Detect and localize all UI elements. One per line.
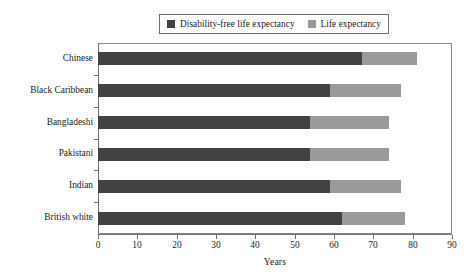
- x-axis-tick-label: 0: [86, 240, 110, 251]
- chart-legend: Disability-free life expectancy Life exp…: [159, 14, 389, 34]
- bar-row: [98, 84, 401, 97]
- bar-segment-life-expectancy: [330, 180, 401, 193]
- bar-segment-life-expectancy: [362, 52, 417, 65]
- bar-segment-life-expectancy: [310, 116, 389, 129]
- y-axis-tick: [94, 202, 98, 203]
- legend-label-disability-free-life-expectancy: Disability-free life expectancy: [180, 19, 295, 29]
- bar-segment-disability-free-life-expectancy: [98, 84, 330, 97]
- y-axis-tick: [94, 75, 98, 76]
- legend-entry-disability-free-life-expectancy: Disability-free life expectancy: [167, 19, 295, 29]
- bar-row: [98, 52, 417, 65]
- x-axis-tick-label: 60: [322, 240, 346, 251]
- bar-segment-disability-free-life-expectancy: [98, 52, 362, 65]
- y-axis-tick: [94, 170, 98, 171]
- x-axis-tick: [255, 235, 256, 239]
- x-axis-tick-label: 80: [401, 240, 425, 251]
- x-axis-tick-label: 30: [204, 240, 228, 251]
- x-axis-tick: [295, 235, 296, 239]
- x-axis-tick: [413, 235, 414, 239]
- y-axis-label-chinese: Chinese: [63, 53, 93, 64]
- bar-segment-disability-free-life-expectancy: [98, 148, 310, 161]
- y-axis-label-bangladeshi: Bangladeshi: [47, 117, 93, 128]
- legend-label-life-expectancy: Life expectancy: [321, 19, 381, 29]
- bar-segment-disability-free-life-expectancy: [98, 180, 330, 193]
- y-axis-label-indian: Indian: [69, 180, 93, 191]
- y-axis-tick: [94, 107, 98, 108]
- x-axis-tick: [334, 235, 335, 239]
- bar-segment-life-expectancy: [342, 212, 405, 225]
- y-axis-label-pakistani: Pakistani: [59, 148, 93, 159]
- x-axis-tick: [98, 235, 99, 239]
- x-axis-tick: [216, 235, 217, 239]
- x-axis-tick-label: 50: [283, 240, 307, 251]
- x-axis-title: Years: [98, 256, 452, 267]
- bar-segment-life-expectancy: [330, 84, 401, 97]
- bar-segment-life-expectancy: [310, 148, 389, 161]
- legend-entry-life-expectancy: Life expectancy: [308, 19, 381, 29]
- x-axis-tick-label: 10: [125, 240, 149, 251]
- x-axis-tick-label: 70: [361, 240, 385, 251]
- y-axis-labels: ChineseBlack CaribbeanBangladeshiPakista…: [0, 0, 93, 279]
- bar-segment-disability-free-life-expectancy: [98, 212, 342, 225]
- legend-swatch-dark: [167, 20, 175, 28]
- x-axis-tick: [137, 235, 138, 239]
- x-axis-tick: [452, 235, 453, 239]
- x-axis-tick-label: 40: [243, 240, 267, 251]
- y-axis-label-black-caribbean: Black Caribbean: [30, 85, 93, 96]
- bar-row: [98, 148, 389, 161]
- bars-layer: [98, 43, 452, 234]
- y-axis-tick: [94, 139, 98, 140]
- legend-swatch-light: [308, 20, 316, 28]
- x-axis-tick-label: 20: [165, 240, 189, 251]
- y-axis-label-british-white: British white: [44, 212, 93, 223]
- x-axis-tick: [177, 235, 178, 239]
- x-axis-tick-label: 90: [440, 240, 464, 251]
- bar-row: [98, 180, 401, 193]
- x-axis-tick: [373, 235, 374, 239]
- bar-segment-disability-free-life-expectancy: [98, 116, 310, 129]
- bar-chart: Disability-free life expectancy Life exp…: [0, 0, 475, 279]
- bar-row: [98, 116, 389, 129]
- x-axis-line: [98, 234, 452, 235]
- bar-row: [98, 212, 405, 225]
